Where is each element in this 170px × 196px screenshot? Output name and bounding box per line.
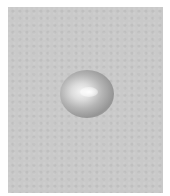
dome-object xyxy=(60,70,114,118)
photograph xyxy=(8,7,163,193)
highlight-reflection xyxy=(80,87,98,97)
